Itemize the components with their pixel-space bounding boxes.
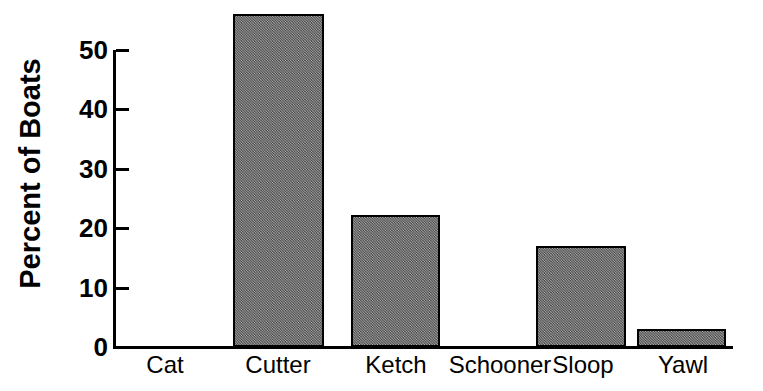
x-tick-label-cat: Cat [113,351,217,379]
y-tick-label-30: 30 [58,156,108,182]
y-tick-label-50: 50 [58,37,108,63]
bar-yawl[interactable] [637,329,726,347]
y-axis-title-text: Percent of Boats [14,58,47,288]
y-tick-label-0: 0 [58,334,108,360]
bar-slot-yawl [637,50,726,347]
x-axis-tick-labels: Cat Cutter Ketch Schooner Sloop Yawl [113,351,733,391]
y-tick-label-40: 40 [58,96,108,122]
y-axis-title: Percent of Boats [0,0,60,347]
bar-slot-ketch [351,50,440,347]
bar-slot-cat [119,50,210,347]
bar-slot-cutter [233,50,324,347]
y-tick-label-20: 20 [58,215,108,241]
bar-slot-sloop [536,50,626,347]
y-axis-tick-labels: 50 40 30 20 10 0 [58,0,108,391]
x-tick-label-cutter: Cutter [226,351,330,379]
bar-ketch[interactable] [351,215,440,347]
bar-cutter[interactable] [233,14,324,347]
plot-area [113,50,733,347]
y-tick-label-10: 10 [58,275,108,301]
x-tick-label-ketch: Ketch [344,351,448,379]
x-tick-label-sloop: Sloop [531,351,635,379]
bar-chart-figure: Percent of Boats 50 40 30 20 10 0 [0,0,763,391]
x-tick-label-yawl: Yawl [631,351,735,379]
bar-slot-schooner [453,50,544,347]
bar-sloop[interactable] [536,246,626,347]
